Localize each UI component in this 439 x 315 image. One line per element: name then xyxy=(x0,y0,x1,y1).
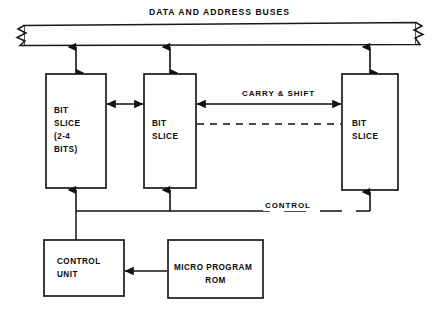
micro-program-rom-line-2: ROM xyxy=(168,275,263,287)
bit-slice-left-line-4: BITS) xyxy=(54,144,78,156)
control-label: CONTROL xyxy=(263,200,313,211)
bus-to-slice-connectors xyxy=(76,47,370,73)
block-diagram-canvas: DATA AND ADDRESS BUSES BIT SLICE (2-4 BI… xyxy=(0,0,439,315)
data-address-bus-bar xyxy=(17,23,423,46)
control-unit-block-rect xyxy=(44,240,124,296)
bit-slice-middle-line-2: SLICE xyxy=(152,131,178,143)
control-unit-line-2: UNIT xyxy=(57,269,78,281)
control-unit-line-1: CONTROL xyxy=(57,256,101,268)
micro-program-rom-line-1: MICRO PROGRAM xyxy=(174,262,252,274)
bit-slice-middle-line-1: BIT xyxy=(152,118,167,130)
carry-shift-label: CARRY & SHIFT xyxy=(240,88,317,99)
bit-slice-left-line-1: BIT xyxy=(54,105,69,117)
control-risers xyxy=(76,190,370,211)
bit-slice-left-line-2: SLICE xyxy=(54,118,80,130)
bit-slice-left-line-3: (2-4 xyxy=(54,131,70,143)
bit-slice-right-line-2: SLICE xyxy=(352,131,378,143)
bit-slice-right-line-1: BIT xyxy=(352,118,367,130)
data-address-bus-label: DATA AND ADDRESS BUSES xyxy=(0,6,439,18)
